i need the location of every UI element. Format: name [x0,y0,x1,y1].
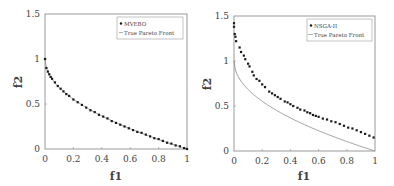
legend-label-true-front: True Pareto Front [124,30,175,36]
chart-right-svg: 0 0.5 1 1.5 0 0.2 0.4 0.6 0.8 1 f1 f2 NS… [197,0,394,186]
y-tick-1: 1 [34,54,40,64]
y-tick-0: 0 [34,144,40,154]
x-tick-0.6: 0.6 [123,154,138,164]
y-tick-0.5: 0.5 [26,99,41,109]
x-tick-labels: 0 0.2 0.4 0.6 0.8 1 [231,156,378,166]
x-tick-labels: 0 0.2 0.4 0.6 0.8 1 [42,154,190,164]
x-tick-0.2: 0.2 [255,156,269,166]
y-tick-labels: 0 0.5 1 1.5 [215,11,230,156]
legend: MVEBO True Pareto Front [117,17,183,39]
x-tick-0.6: 0.6 [311,156,326,166]
x-axis-label: f1 [298,170,310,183]
legend-marker-icon [310,24,312,26]
x-tick-0.2: 0.2 [66,154,80,164]
chart-mvebo: 0 0.5 1 1.5 0 0.2 0.4 0.6 0.8 1 f1 f2 MV… [0,0,197,186]
y-tick-1.5: 1.5 [215,11,230,21]
legend-label-nsga2: NSGA-II [314,23,337,29]
x-tick-1: 1 [184,154,190,164]
y-axis-label: f2 [201,78,214,90]
legend-label-true-front: True Pareto Front [314,32,365,38]
x-tick-0.4: 0.4 [283,156,298,166]
mvebo-points [44,58,188,150]
legend-marker-icon [120,22,122,24]
y-tick-labels: 0 0.5 1 1.5 [26,9,41,154]
x-tick-0: 0 [42,154,48,164]
chart-nsga2: 0 0.5 1 1.5 0 0.2 0.4 0.6 0.8 1 f1 f2 NS… [197,0,394,186]
y-tick-1.5: 1.5 [26,9,41,19]
x-tick-0.8: 0.8 [340,156,355,166]
x-axis-label: f1 [110,170,122,183]
legend: NSGA-II True Pareto Front [307,19,372,41]
y-tick-0.5: 0.5 [215,101,230,111]
x-tick-0: 0 [231,156,237,166]
y-axis-label: f2 [12,76,25,88]
x-tick-1: 1 [372,156,378,166]
x-tick-0.8: 0.8 [151,154,166,164]
true-pareto-front-line [45,59,187,149]
true-pareto-front-line [234,61,375,151]
chart-left-svg: 0 0.5 1 1.5 0 0.2 0.4 0.6 0.8 1 f1 f2 MV… [0,0,197,186]
legend-label-mvebo: MVEBO [124,21,147,27]
y-tick-0: 0 [223,146,229,156]
x-tick-0.4: 0.4 [95,154,110,164]
y-tick-1: 1 [223,56,229,66]
